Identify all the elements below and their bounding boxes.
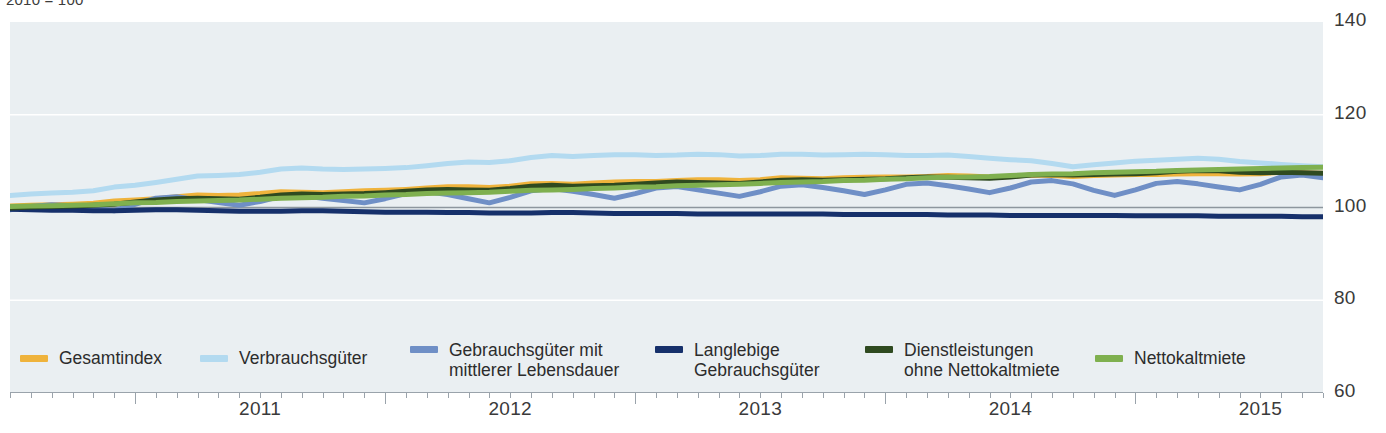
- x-axis-tick: [1135, 393, 1136, 404]
- x-axis-tick: [635, 393, 636, 404]
- x-axis-tick: [427, 393, 428, 398]
- x-axis-tick: [656, 393, 657, 398]
- legend-label: Gebrauchsgüter mit mittlerer Lebensdauer: [449, 340, 619, 380]
- legend-label: Dienstleistungen ohne Nettokaltmiete: [904, 340, 1060, 380]
- legend-swatch-icon: [655, 346, 683, 353]
- x-axis-tick: [573, 393, 574, 398]
- y-axis-tick-label: 80: [1334, 287, 1356, 309]
- x-axis-tick: [302, 393, 303, 398]
- legend-swatch-icon: [20, 355, 48, 362]
- legend-swatch-icon: [410, 346, 438, 353]
- x-axis-tick: [156, 393, 157, 398]
- x-axis-tick: [677, 393, 678, 398]
- x-axis-tick: [448, 393, 449, 398]
- x-axis-tick: [1115, 393, 1116, 398]
- x-axis-tick: [1198, 393, 1199, 398]
- legend-swatch-icon: [200, 355, 228, 362]
- x-axis-tick: [802, 393, 803, 398]
- x-axis-tick: [844, 393, 845, 398]
- y-axis-tick-label: 140: [1334, 9, 1367, 31]
- legend-item[interactable]: Langlebige Gebrauchsgüter: [655, 340, 820, 380]
- x-axis-tick: [73, 393, 74, 398]
- x-axis-tick: [552, 393, 553, 398]
- x-axis-tick: [177, 393, 178, 398]
- x-axis-tick: [906, 393, 907, 398]
- y-axis-tick-label: 100: [1334, 195, 1367, 217]
- x-axis-tick: [864, 393, 865, 398]
- x-axis-tick: [469, 393, 470, 398]
- x-axis-tick-label: 2013: [739, 398, 782, 420]
- x-axis-tick: [385, 393, 386, 404]
- x-axis-tick: [1094, 393, 1095, 398]
- x-axis-tick: [719, 393, 720, 398]
- x-axis-tick: [1323, 393, 1324, 398]
- x-axis-tick-label: 2014: [989, 398, 1032, 420]
- x-axis-tick: [218, 393, 219, 398]
- series-line: [10, 209, 1323, 216]
- legend-label: Langlebige Gebrauchsgüter: [694, 340, 820, 380]
- x-axis-tick: [52, 393, 53, 398]
- legend-swatch-icon: [865, 346, 893, 353]
- chart-caption: 2010 = 100: [6, 0, 84, 8]
- x-axis-tick: [698, 393, 699, 398]
- chart-legend: GesamtindexVerbrauchsgüterGebrauchsgüter…: [0, 330, 1386, 382]
- x-axis-tick: [323, 393, 324, 398]
- x-axis-tick: [31, 393, 32, 398]
- x-axis-tick: [135, 393, 136, 404]
- series-line: [10, 167, 1323, 206]
- x-axis-tick: [93, 393, 94, 398]
- legend-item[interactable]: Dienstleistungen ohne Nettokaltmiete: [865, 340, 1060, 380]
- x-axis-line: [10, 392, 1323, 393]
- x-axis-tick: [614, 393, 615, 398]
- legend-item[interactable]: Nettokaltmiete: [1095, 348, 1246, 368]
- legend-item[interactable]: Gebrauchsgüter mit mittlerer Lebensdauer: [410, 340, 619, 380]
- x-axis-tick: [1156, 393, 1157, 398]
- legend-swatch-icon: [1095, 355, 1123, 362]
- legend-label: Nettokaltmiete: [1134, 348, 1246, 368]
- legend-label: Gesamtindex: [59, 348, 162, 368]
- x-axis-tick-label: 2011: [239, 398, 281, 420]
- x-axis-tick: [114, 393, 115, 398]
- x-axis-tick: [198, 393, 199, 398]
- legend-item[interactable]: Verbrauchsgüter: [200, 348, 367, 368]
- legend-label: Verbrauchsgüter: [239, 348, 367, 368]
- x-axis-tick: [1177, 393, 1178, 398]
- x-axis-tick: [927, 393, 928, 398]
- y-axis-tick-label: 60: [1334, 380, 1356, 402]
- legend-item[interactable]: Gesamtindex: [20, 348, 162, 368]
- x-axis-tick: [406, 393, 407, 398]
- x-axis-tick: [969, 393, 970, 398]
- x-axis-tick: [1302, 393, 1303, 398]
- x-axis-tick: [10, 393, 11, 398]
- x-axis-tick: [1052, 393, 1053, 398]
- x-axis-tick: [1219, 393, 1220, 398]
- x-axis-tick: [948, 393, 949, 398]
- x-axis-tick: [823, 393, 824, 398]
- x-axis-tick: [885, 393, 886, 404]
- x-axis-tick: [364, 393, 365, 398]
- x-axis-tick: [594, 393, 595, 398]
- x-axis-tick: [1073, 393, 1074, 398]
- y-axis-tick-label: 120: [1334, 102, 1367, 124]
- x-axis-tick-label: 2015: [1239, 398, 1282, 420]
- x-axis-tick-label: 2012: [488, 398, 531, 420]
- x-axis-tick: [343, 393, 344, 398]
